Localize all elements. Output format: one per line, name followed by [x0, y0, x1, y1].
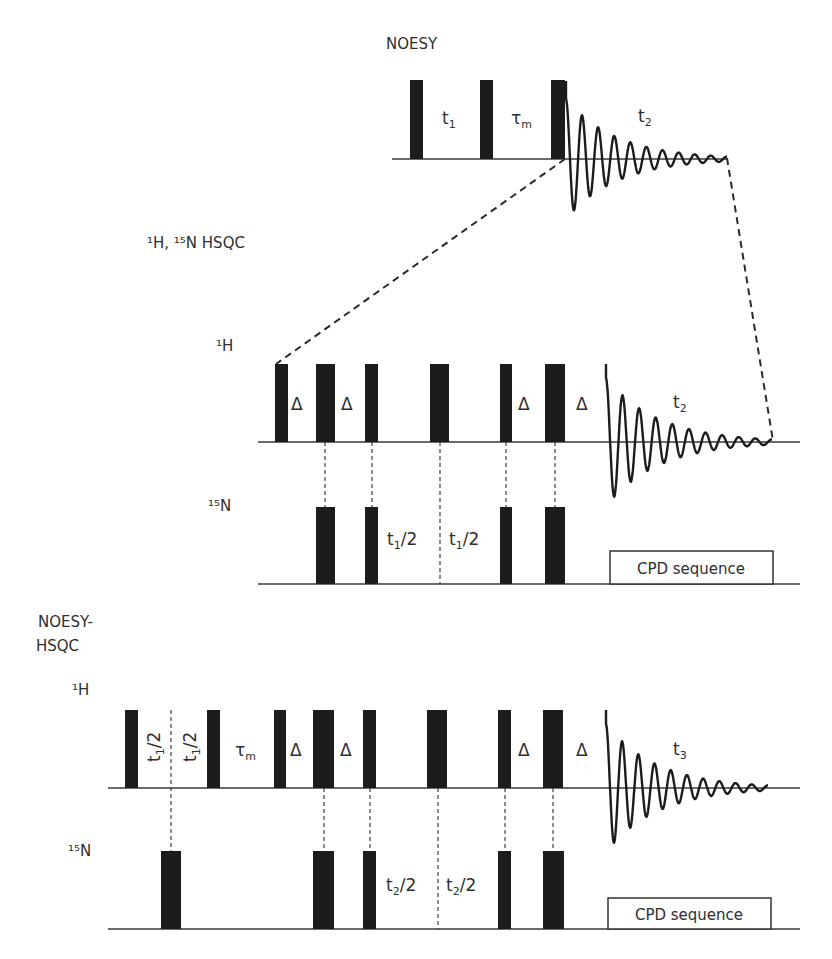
noesy-sequence: NOESY t1 τm t2 — [386, 35, 728, 210]
nh-t1-half-1: t1/2 — [144, 732, 167, 762]
hsqc-h-pulse-4 — [430, 364, 449, 442]
nh-h-pulse-1 — [125, 710, 138, 788]
nh-h-pulse-8 — [543, 710, 563, 788]
nh-mixing-label: τm — [235, 740, 256, 763]
nh-n-pulse-4 — [498, 851, 511, 929]
noesy-hsqc-n-channel-label: ¹⁵N — [68, 842, 91, 860]
nh-n-pulse-5 — [543, 851, 564, 929]
noesy-mixing-label: τm — [511, 108, 532, 131]
pulse-sequence-diagram: NOESY t1 τm t2 ¹H, ¹⁵N HSQC ¹H ¹⁵N Δ Δ Δ… — [0, 0, 832, 959]
nh-delta-4: Δ — [576, 740, 588, 760]
nh-h-pulse-5 — [363, 710, 376, 788]
hsqc-t1-half-2: t1/2 — [449, 529, 479, 552]
noesy-hsqc-title-line1: NOESY- — [38, 613, 93, 631]
hsqc-n-pulse-2 — [365, 507, 378, 584]
hsqc-delta-3: Δ — [518, 394, 530, 414]
hsqc-t2-label: t2 — [673, 392, 687, 415]
expansion-line-left — [276, 159, 565, 364]
hsqc-h-channel-label: ¹H — [216, 337, 233, 355]
nh-h-pulse-4 — [313, 710, 334, 788]
hsqc-h-pulse-2 — [316, 364, 335, 442]
noesy-hsqc-title-line2: HSQC — [36, 637, 79, 655]
hsqc-h-pulse-6 — [545, 364, 565, 442]
hsqc-sequence: ¹H, ¹⁵N HSQC ¹H ¹⁵N Δ Δ Δ Δ t2 t1/2 t1/2… — [147, 234, 800, 584]
nh-n-pulse-2 — [313, 851, 334, 929]
noesy-t1-label: t1 — [442, 108, 456, 131]
nh-h-pulse-2 — [207, 710, 220, 788]
nh-n-pulse-1 — [161, 851, 181, 929]
noesy-hsqc-h-channel-label: ¹H — [72, 681, 89, 699]
nh-h-pulse-7 — [498, 710, 511, 788]
nh-n-pulse-3 — [363, 851, 376, 929]
nh-t1-half-2: t1/2 — [180, 732, 203, 762]
nh-t2-half-2: t2/2 — [446, 875, 476, 898]
hsqc-delta-1: Δ — [291, 394, 303, 414]
hsqc-cpd-label: CPD sequence — [637, 560, 745, 578]
hsqc-h-pulse-1 — [275, 364, 288, 442]
noesy-pulse-3 — [551, 80, 565, 159]
hsqc-n-channel-label: ¹⁵N — [208, 497, 231, 515]
nh-delta-3: Δ — [518, 740, 530, 760]
hsqc-delta-4: Δ — [576, 394, 588, 414]
noesy-hsqc-sequence: NOESY- HSQC ¹H ¹⁵N t1/2 t1/2 τm Δ Δ Δ Δ … — [36, 613, 800, 929]
nh-t2-half-1: t2/2 — [386, 875, 416, 898]
nh-t3-label: t3 — [673, 739, 687, 762]
noesy-fid-signal — [566, 81, 727, 210]
nh-h-pulse-6 — [427, 710, 447, 788]
hsqc-title: ¹H, ¹⁵N HSQC — [147, 234, 245, 252]
noesy-pulse-1 — [410, 80, 423, 159]
nh-h-pulse-3 — [274, 710, 286, 788]
hsqc-fid-signal — [606, 364, 772, 497]
nh-delta-2: Δ — [340, 740, 352, 760]
hsqc-t1-half-1: t1/2 — [387, 529, 417, 552]
noesy-t2-label: t2 — [638, 106, 652, 129]
nh-delta-1: Δ — [290, 740, 302, 760]
hsqc-h-pulse-3 — [365, 364, 378, 442]
hsqc-n-pulse-4 — [545, 507, 565, 584]
hsqc-delta-2: Δ — [341, 394, 353, 414]
nh-cpd-label: CPD sequence — [635, 906, 743, 924]
hsqc-n-pulse-1 — [316, 507, 335, 584]
hsqc-h-pulse-5 — [500, 364, 512, 442]
noesy-hsqc-fid-signal — [606, 710, 768, 843]
noesy-pulse-2 — [480, 80, 493, 159]
expansion-line-right — [727, 158, 773, 441]
noesy-title: NOESY — [386, 35, 438, 53]
hsqc-n-pulse-3 — [500, 507, 512, 584]
